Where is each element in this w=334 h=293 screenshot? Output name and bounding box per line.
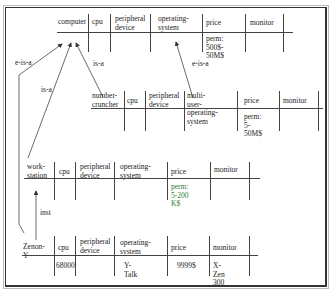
slot-value: X-Zen 300 bbox=[213, 262, 225, 288]
arrow-e-is-a-zenon-computer bbox=[19, 44, 62, 233]
slot-header: cpu bbox=[58, 244, 69, 253]
arrow-is-a-numbercruncher-computer bbox=[76, 43, 103, 97]
slot-header: multi-user- operating-system bbox=[187, 92, 218, 126]
label-is-a: is-a bbox=[41, 86, 52, 94]
slot-value: Y-Talk bbox=[124, 262, 137, 279]
slot-header: monitor bbox=[250, 19, 274, 28]
slot-header: price bbox=[244, 97, 259, 106]
frame-name: computer bbox=[58, 18, 86, 27]
slot-header: peripheral device bbox=[149, 92, 179, 109]
slot-header: price bbox=[171, 168, 186, 177]
slot-header: monitor bbox=[213, 244, 237, 253]
slot-header: price bbox=[206, 19, 221, 28]
slot-value: perm: 5-200 K$ bbox=[171, 183, 189, 209]
slot-header: peripheral device bbox=[80, 238, 110, 255]
slot-header: price bbox=[171, 244, 186, 253]
label-e-is-a: e-is-a bbox=[15, 59, 32, 67]
arrow-is-a-workstation-computer bbox=[28, 43, 71, 158]
slot-header: operating- system bbox=[158, 15, 189, 32]
slot-value: 68000 bbox=[56, 262, 75, 271]
label-e-is-a: e-is-a bbox=[192, 60, 209, 68]
arrow-e-is-a-os bbox=[176, 42, 193, 98]
slot-header: peripheral device bbox=[115, 15, 145, 32]
frame-name: number- cruncher bbox=[92, 92, 118, 109]
slot-value: perm: 500$- 50M$ bbox=[206, 35, 224, 61]
slot-header: monitor bbox=[214, 166, 238, 175]
slot-header: monitor bbox=[283, 97, 307, 106]
slot-header: operating- system bbox=[120, 239, 151, 256]
slot-header: cpu bbox=[127, 97, 138, 106]
slot-value: 9999$ bbox=[177, 262, 196, 271]
slot-header: cpu bbox=[92, 18, 103, 27]
frame-name: Zenon-Y bbox=[23, 243, 45, 260]
label-is-a: is-a bbox=[93, 60, 104, 68]
slot-header: cpu bbox=[59, 168, 70, 177]
label-inst: inst bbox=[40, 209, 51, 217]
slot-value: perm: 5- 50M$ bbox=[244, 113, 262, 139]
